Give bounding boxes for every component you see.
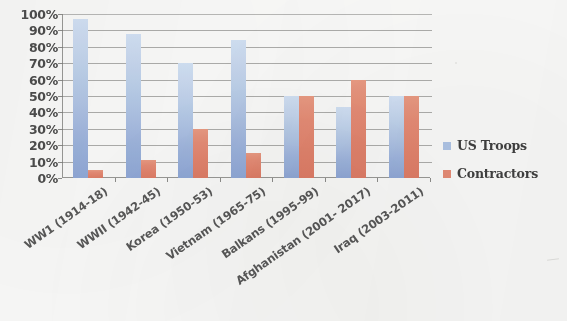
scan-artifact (455, 62, 457, 64)
bar-us-troops (231, 40, 246, 178)
y-tick-label: 0% (6, 171, 58, 186)
bar-contractors (404, 96, 419, 178)
chart-legend: US TroopsContractors (443, 138, 563, 194)
y-tick-label: 60% (6, 72, 58, 87)
y-tick-label: 70% (6, 56, 58, 71)
bar-group (115, 14, 168, 178)
bar-us-troops (284, 96, 299, 178)
scan-artifact (547, 258, 559, 261)
y-axis-tick (58, 178, 62, 179)
bar-group (220, 14, 273, 178)
legend-swatch-icon (443, 170, 451, 178)
y-tick-label: 50% (6, 89, 58, 104)
bar-contractors (351, 80, 366, 178)
bar-contractors (88, 170, 103, 178)
bar-group (167, 14, 220, 178)
bar-contractors (193, 129, 208, 178)
legend-item[interactable]: Contractors (443, 166, 563, 181)
bar-us-troops (336, 107, 351, 178)
bar-group (325, 14, 378, 178)
plot-area (62, 14, 430, 178)
legend-swatch-icon (443, 142, 451, 150)
legend-label: Contractors (457, 166, 538, 181)
legend-label: US Troops (457, 138, 527, 153)
bar-us-troops (178, 63, 193, 178)
chart-screenshot: 100%90%80%70%60%50%40%30%20%10%0% WW1 (1… (0, 0, 567, 321)
bar-us-troops (73, 19, 88, 178)
bar-contractors (246, 153, 261, 178)
x-axis-tick (167, 178, 168, 182)
bar-contractors (299, 96, 314, 178)
bar-group (377, 14, 430, 178)
y-tick-label: 30% (6, 121, 58, 136)
x-axis-tick (115, 178, 116, 182)
bar-group (62, 14, 115, 178)
x-axis-tick (272, 178, 273, 182)
bars-layer (62, 14, 430, 178)
y-tick-label: 80% (6, 39, 58, 54)
x-axis-tick (430, 178, 431, 182)
y-axis: 100%90%80%70%60%50%40%30%20%10%0% (6, 8, 58, 180)
y-tick-label: 40% (6, 105, 58, 120)
bar-us-troops (126, 34, 141, 178)
x-axis-tick (220, 178, 221, 182)
y-tick-label: 100% (6, 7, 58, 22)
bar-us-troops (389, 96, 404, 178)
x-axis-tick (377, 178, 378, 182)
x-axis-tick (325, 178, 326, 182)
y-tick-label: 10% (6, 154, 58, 169)
legend-item[interactable]: US Troops (443, 138, 563, 153)
bar-group (272, 14, 325, 178)
y-tick-label: 20% (6, 138, 58, 153)
y-tick-label: 90% (6, 23, 58, 38)
bar-contractors (141, 160, 156, 178)
